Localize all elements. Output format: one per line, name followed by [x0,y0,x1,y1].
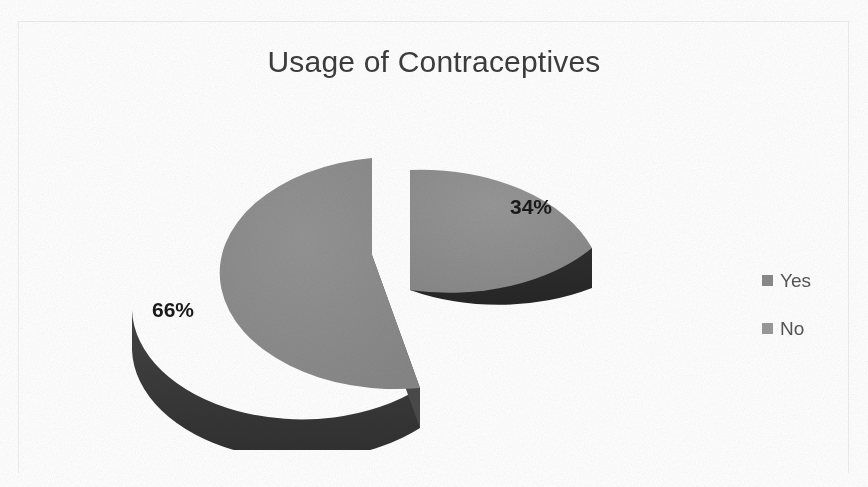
slice-label-no: 34% [510,195,552,219]
chart-legend: Yes No [762,268,858,364]
legend-label-no: No [780,319,804,338]
pie-plot-area: 66% 34% [110,140,690,450]
slice-yes-top [220,158,420,389]
legend-label-yes: Yes [780,271,811,290]
pie-chart-figure: Usage of Contraceptives [0,0,868,487]
legend-item-no[interactable]: No [762,316,858,340]
legend-swatch-yes-icon [762,275,773,286]
chart-title: Usage of Contraceptives [0,45,868,79]
scan-border-top [18,21,850,22]
scan-border-left [18,21,19,473]
legend-item-yes[interactable]: Yes [762,268,858,292]
scan-border-right [848,21,849,473]
slice-label-yes: 66% [152,298,194,322]
pie-chart-svg [110,140,690,450]
legend-swatch-no-icon [762,323,773,334]
